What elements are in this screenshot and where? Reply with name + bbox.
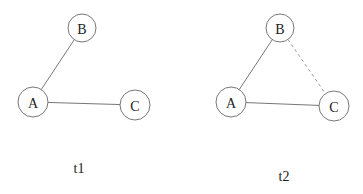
node-c: C bbox=[319, 91, 349, 121]
graph-t1: A B C t1 bbox=[18, 14, 150, 176]
node-c: C bbox=[120, 90, 150, 120]
edge-b-c-dashed bbox=[288, 40, 325, 94]
edge-a-b bbox=[41, 40, 74, 90]
node-a: A bbox=[18, 87, 48, 117]
node-a: A bbox=[216, 87, 246, 117]
graph-caption: t2 bbox=[279, 169, 290, 184]
graph-t2: A B C t2 bbox=[216, 14, 349, 184]
node-label: C bbox=[329, 100, 338, 115]
node-label: B bbox=[275, 22, 284, 37]
edge-a-c bbox=[246, 103, 319, 106]
node-label: C bbox=[130, 99, 139, 114]
node-b: B bbox=[266, 14, 294, 42]
node-label: A bbox=[226, 96, 237, 111]
diagram-canvas: A B C t1 A B C t2 bbox=[0, 0, 363, 194]
graph-caption: t1 bbox=[74, 161, 85, 176]
node-label: B bbox=[77, 22, 86, 37]
edge-a-b bbox=[239, 40, 272, 90]
node-label: A bbox=[28, 96, 39, 111]
node-b: B bbox=[68, 14, 96, 42]
edge-a-c bbox=[48, 102, 120, 104]
